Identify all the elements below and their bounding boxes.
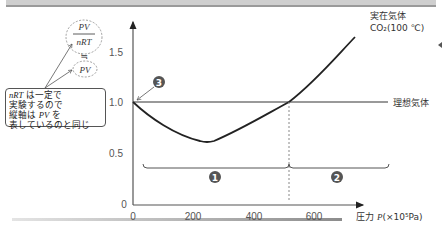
real-gas-curve xyxy=(133,37,355,142)
note-line-2: 実験するので xyxy=(9,100,102,110)
real-gas-label-line1: 実在気体 xyxy=(370,10,406,21)
approx-symbol: ≒ xyxy=(80,51,88,61)
x-tick-0: 0 xyxy=(130,211,136,222)
badge-3-pointer-arrow xyxy=(137,87,154,100)
pv-text: PV xyxy=(79,65,92,75)
fraction-numerator: PV xyxy=(78,22,91,32)
explanation-note: nRT は一定で 実験するので 縦軸は PV を 表しているのと同じ xyxy=(5,88,106,127)
svg-text:1: 1 xyxy=(212,173,218,183)
y-tick-1.5: 1.5 xyxy=(109,47,123,58)
fraction-denominator: nRT xyxy=(76,37,92,47)
svg-text:2: 2 xyxy=(334,173,340,183)
bracket-region-2 xyxy=(289,164,389,168)
note-line-3: 縦軸は PV を xyxy=(9,110,102,120)
right-edge-arrow-fragment xyxy=(438,42,442,48)
note-line-1: nRT は一定で xyxy=(9,90,102,100)
badge-3: 3 xyxy=(153,76,165,88)
note-pointer-to-pv xyxy=(45,70,72,88)
x-tick-400: 400 xyxy=(246,211,263,222)
ideal-gas-label: 理想気体 xyxy=(393,97,429,108)
real-gas-label-line2: CO₂(100 ℃) xyxy=(370,23,424,33)
note-pointer-to-fraction xyxy=(45,44,72,88)
note-line-4: 表しているのと同じ xyxy=(9,120,102,130)
x-tick-600: 600 xyxy=(306,211,323,222)
badge-1: 1 xyxy=(209,171,221,183)
y-tick-0: 0 xyxy=(121,199,127,210)
x-tick-200: 200 xyxy=(185,211,202,222)
x-axis-label: 圧力 P(×10⁵Pa) xyxy=(356,211,423,222)
svg-text:3: 3 xyxy=(156,78,162,88)
badge-2: 2 xyxy=(331,171,343,183)
y-tick-0.5: 0.5 xyxy=(109,148,123,159)
y-tick-1.0: 1.0 xyxy=(109,97,123,108)
bracket-region-1 xyxy=(143,164,289,168)
